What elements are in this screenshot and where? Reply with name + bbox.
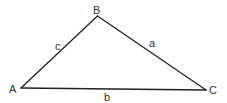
side-c-label: c bbox=[55, 40, 61, 52]
side-c-line bbox=[21, 16, 98, 88]
vertex-a-label: A bbox=[9, 83, 17, 95]
side-b-label: b bbox=[104, 91, 110, 103]
side-b-line bbox=[21, 88, 206, 90]
vertex-c-label: C bbox=[209, 84, 217, 96]
triangle-diagram: A B C c a b bbox=[0, 0, 227, 103]
vertex-b-label: B bbox=[93, 4, 100, 16]
side-a-line bbox=[98, 16, 207, 90]
side-a-label: a bbox=[149, 37, 156, 49]
